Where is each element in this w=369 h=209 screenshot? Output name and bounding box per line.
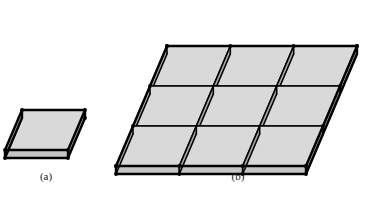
caption-panel-b: (b): [210, 170, 266, 182]
caption-panel-a: (a): [18, 170, 74, 182]
block-vertex-left-1: [131, 124, 135, 128]
figure-container: (a) (b): [0, 0, 369, 209]
block-vertex-front-2: [241, 164, 245, 168]
cell-a-vertex-1: [66, 148, 70, 152]
cell-a-vertex-5: [66, 156, 70, 160]
block-vertex-left-2: [148, 84, 152, 88]
cell-a-vertex-3: [83, 108, 87, 112]
block-vertex-right-1: [321, 124, 325, 128]
block-vertex-front-bottom-3: [304, 172, 308, 176]
panel-a-unit-cell: [3, 108, 87, 160]
block-vertex-front-bottom-1: [177, 172, 181, 176]
block-vertex-front-bottom-0: [114, 172, 118, 176]
block-vertex-back-1: [228, 44, 232, 48]
panel-b-lattice-array: [114, 44, 359, 176]
cell-a-vertex-0: [3, 148, 7, 152]
block-vertex-right-2: [338, 84, 342, 88]
block-vertex-front-1: [177, 164, 181, 168]
block-vertex-back-2: [292, 44, 296, 48]
block-vertex-left-0: [114, 164, 118, 168]
block-vertex-right-3: [355, 44, 359, 48]
block-vertex-left-3: [165, 44, 169, 48]
cell-a-vertex-2: [20, 108, 24, 112]
block-vertex-right-0: [304, 164, 308, 168]
cell-a-vertex-4: [3, 156, 7, 160]
cell-a-vertex-6: [83, 116, 87, 120]
